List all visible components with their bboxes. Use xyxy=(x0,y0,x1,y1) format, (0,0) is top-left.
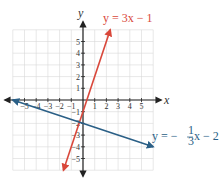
svg-text:3: 3 xyxy=(116,102,120,111)
x-axis-label: x xyxy=(163,93,170,107)
equation-label-blue: y = −13x − 2 xyxy=(152,123,219,148)
y-axis-label: y xyxy=(77,6,84,20)
svg-text:−1: −1 xyxy=(71,108,80,117)
svg-text:4: 4 xyxy=(128,102,132,111)
svg-text:5: 5 xyxy=(140,102,144,111)
svg-text:x − 2: x − 2 xyxy=(194,129,219,143)
svg-text:−2: −2 xyxy=(55,102,64,111)
svg-text:3: 3 xyxy=(76,61,80,70)
svg-text:−3: −3 xyxy=(44,102,53,111)
svg-text:−5: −5 xyxy=(71,155,80,164)
svg-text:2: 2 xyxy=(104,102,108,111)
svg-text:y = −: y = − xyxy=(152,129,178,143)
coordinate-plane: −5−4−3−2−11234554321−1−2−3−4−5 x y y = 3… xyxy=(0,0,224,180)
svg-text:5: 5 xyxy=(76,38,80,47)
svg-text:4: 4 xyxy=(76,49,80,58)
svg-text:1: 1 xyxy=(93,102,97,111)
svg-text:1: 1 xyxy=(76,84,80,93)
axes xyxy=(5,22,161,176)
equation-label-red: y = 3x − 1 xyxy=(103,11,153,25)
svg-text:2: 2 xyxy=(76,73,80,82)
